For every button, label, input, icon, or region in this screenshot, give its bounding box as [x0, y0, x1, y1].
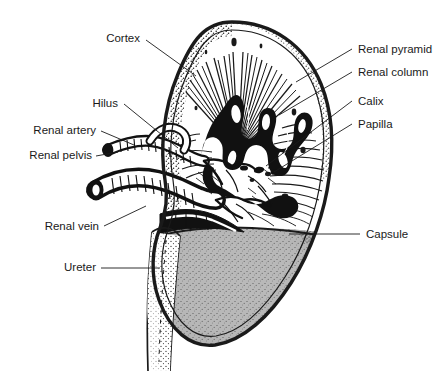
kidney-body: [89, 20, 337, 371]
label-renal-vein: Renal vein: [45, 220, 99, 232]
label-hilus: Hilus: [92, 97, 118, 109]
label-capsule: Capsule: [366, 228, 408, 240]
label-renal-pelvis: Renal pelvis: [29, 149, 92, 161]
label-papilla: Papilla: [358, 118, 393, 130]
ureter: [147, 228, 180, 371]
label-cortex: Cortex: [106, 32, 140, 44]
leader-renal-vein: [104, 206, 146, 226]
label-ureter: Ureter: [64, 261, 96, 273]
label-renal-pyramid: Renal pyramid: [358, 43, 432, 55]
renal-artery: [103, 127, 204, 166]
kidney-illustration: Cortex Hilus Renal artery Renal pelvis R…: [0, 0, 446, 371]
label-calix: Calix: [358, 95, 384, 107]
label-renal-column: Renal column: [358, 66, 428, 78]
kidney-diagram: Cortex Hilus Renal artery Renal pelvis R…: [0, 0, 446, 371]
label-renal-artery: Renal artery: [33, 124, 96, 136]
